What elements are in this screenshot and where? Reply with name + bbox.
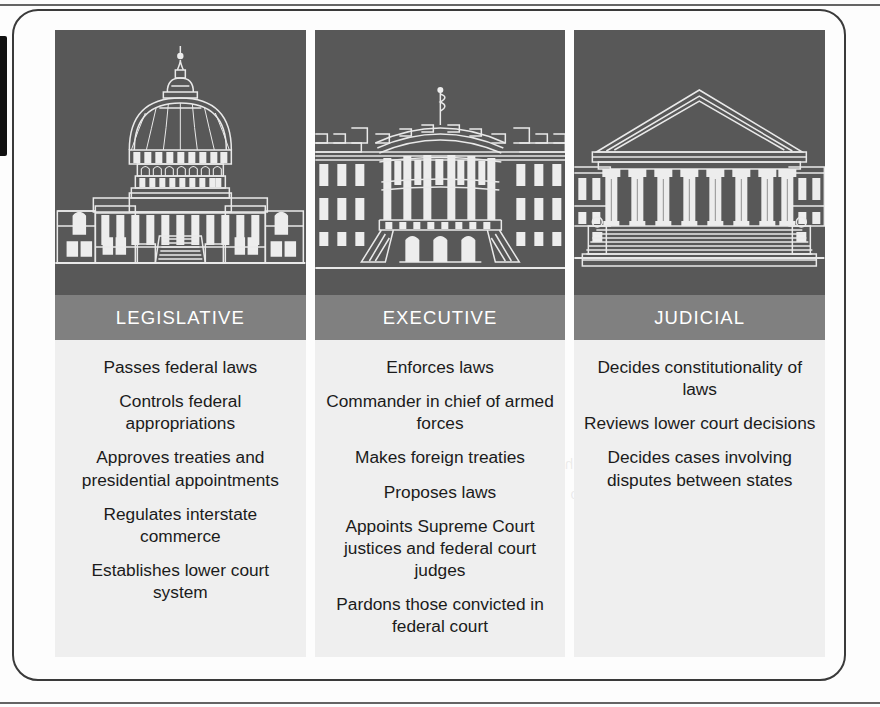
duty-item: Establishes lower court system [63, 559, 298, 603]
duties-list-executive: Enforces laws Commander in chief of arme… [315, 340, 566, 657]
branch-label-executive: EXECUTIVE [315, 295, 566, 340]
duty-item: Decides cases involving disputes between… [582, 446, 817, 490]
duty-item: Commander in chief of armed forces [323, 390, 558, 434]
duty-item: Reviews lower court decisions [582, 412, 817, 434]
page-binding-tab [0, 36, 7, 156]
duty-item: Controls federal appropriations [63, 390, 298, 434]
page-bottom-rule [0, 702, 880, 704]
duties-list-legislative: Passes federal laws Controls federal app… [55, 340, 306, 657]
duty-item: Appoints Supreme Court justices and fede… [323, 515, 558, 581]
duty-item: Proposes laws [323, 481, 558, 503]
branch-column-legislative: LEGISLATIVE Passes federal laws Controls… [55, 30, 306, 657]
page-top-rule [0, 4, 880, 6]
branch-column-executive: EXECUTIVE Enforces laws Commander in chi… [315, 30, 566, 657]
scanned-page-sheet: stneduts fo sthgir tnemnrevog laredef eh… [0, 0, 880, 707]
duty-item: Decides constitutionality of laws [582, 356, 817, 400]
supreme-court-building-illustration [574, 30, 825, 295]
branch-column-judicial: JUDICIAL Decides constitutionality of la… [574, 30, 825, 657]
branch-label-judicial: JUDICIAL [574, 295, 825, 340]
three-branches-figure: LEGISLATIVE Passes federal laws Controls… [55, 30, 825, 657]
white-house-building-illustration [315, 30, 566, 295]
duty-item: Enforces laws [323, 356, 558, 378]
branch-label-legislative: LEGISLATIVE [55, 295, 306, 340]
duty-item: Pardons those convicted in federal court [323, 593, 558, 637]
duty-item: Approves treaties and presidential appoi… [63, 446, 298, 490]
duty-item: Regulates interstate commerce [63, 503, 298, 547]
duty-item: Makes foreign treaties [323, 446, 558, 468]
duty-item: Passes federal laws [63, 356, 298, 378]
duties-list-judicial: Decides constitutionality of laws Review… [574, 340, 825, 657]
us-capitol-building-illustration [55, 30, 306, 295]
